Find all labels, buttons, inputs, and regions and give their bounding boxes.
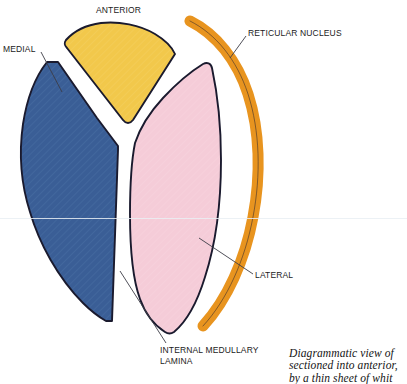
label-reticular-nucleus: RETICULAR NUCLEUS [248, 28, 342, 39]
label-medial: MEDIAL [3, 44, 36, 55]
leader-line-reticular [230, 36, 246, 58]
label-lateral: LATERAL [255, 270, 293, 281]
label-internal-medullary-lamina: INTERNAL MEDULLARY LAMINA [160, 345, 280, 367]
caption-line-2: sectioned into anterior, [289, 359, 407, 371]
caption-line-1: Diagrammatic view of [289, 347, 407, 359]
medial-nucleus-shape [21, 62, 118, 321]
scan-artifact-line [0, 218, 407, 219]
caption-line-3: by a thin sheet of whit [289, 372, 407, 384]
figure-caption: Diagrammatic view of sectioned into ante… [289, 347, 407, 384]
label-anterior: ANTERIOR [96, 5, 141, 16]
